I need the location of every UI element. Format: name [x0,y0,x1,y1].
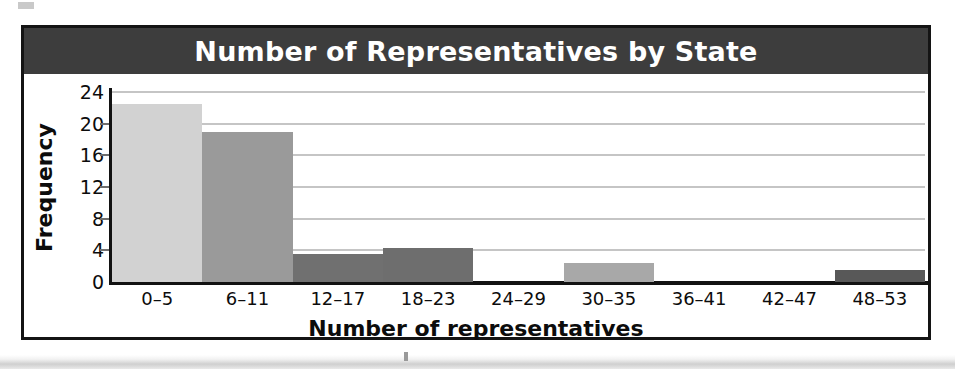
y-axis-tick-label: 0 [92,271,104,293]
page-edge-strip [0,355,955,369]
bar [564,263,654,282]
y-axis-tick-mark [100,249,109,251]
y-axis-tick-mark [100,218,109,220]
bar [202,132,292,282]
page-title: Number of Representatives by State [194,36,757,67]
page-edge-mark [404,352,408,361]
bar-slot [112,92,202,282]
bar-slot [383,92,473,282]
x-axis-label: Number of representatives [24,316,928,341]
bar-slot [654,92,744,282]
bar [112,104,202,282]
y-axis-label: Frequency [30,92,58,282]
plot-area [109,92,925,282]
x-axis-tick-label: 48–53 [835,288,925,309]
y-axis-tick-mark [100,154,109,156]
bar-slot [202,92,292,282]
chart-title-band: Number of Representatives by State [24,28,928,74]
bar-slot [835,92,925,282]
chart-figure: Number of Representatives by State Frequ… [21,25,931,340]
x-axis-tick-label: 6–11 [202,288,292,309]
page-speck [18,2,34,9]
x-axis-tick-label: 0–5 [112,288,202,309]
plot-region: Frequency 04812162024 0–56–1112–1718–232… [24,74,928,337]
x-axis-tick-label: 36–41 [654,288,744,309]
x-axis-tick-label: 12–17 [293,288,383,309]
x-axis-tick-labels: 0–56–1112–1718–2324–2930–3536–4142–4748–… [112,288,925,309]
bar [383,248,473,282]
y-axis-tick-mark [100,186,109,188]
bar-slot [473,92,563,282]
bar [293,254,383,282]
bar-slot [744,92,834,282]
bar-slot [564,92,654,282]
x-axis-tick-label: 18–23 [383,288,473,309]
bar [835,270,925,282]
bar-slot [293,92,383,282]
x-axis-tick-label: 24–29 [473,288,563,309]
y-axis-tick-mark [100,123,109,125]
bar-series [112,92,925,282]
x-axis-tick-label: 42–47 [744,288,834,309]
y-axis-tick-label: 24 [80,81,104,103]
x-axis-tick-label: 30–35 [564,288,654,309]
y-axis-label-text: Frequency [32,123,57,252]
